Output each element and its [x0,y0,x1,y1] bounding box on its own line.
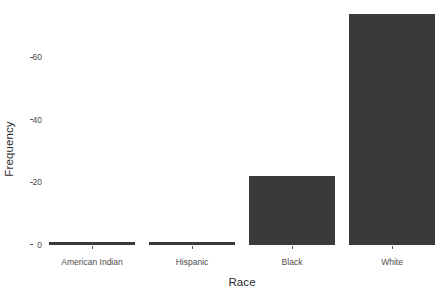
y-tick-mark [30,182,33,183]
x-tick-mark [292,246,293,249]
x-tick-label: Hispanic [176,257,209,267]
y-axis-title: Frequency [0,0,18,298]
x-tick-label: American Indian [61,257,122,267]
y-tick: 40 [0,116,42,125]
bar[interactable] [149,242,235,245]
plot-area [42,8,442,245]
y-tick: 20 [0,178,42,187]
bar-chart: Frequency 0204060 American IndianHispani… [0,0,445,298]
y-tick-mark [30,57,33,58]
x-tick-label: Black [282,257,303,267]
x-tick-mark [92,246,93,249]
y-tick-mark [30,244,33,245]
y-tick-label: 0 [16,241,42,250]
x-tick-mark [392,246,393,249]
bar[interactable] [49,242,135,245]
y-tick-label: 60 [16,53,42,62]
bar[interactable] [249,176,335,245]
y-tick-label: 20 [16,178,42,187]
x-axis-title: Race [42,275,442,289]
x-tick-mark [192,246,193,249]
bar[interactable] [349,14,435,245]
y-tick-label: 40 [16,116,42,125]
x-tick-label: White [381,257,403,267]
y-tick-mark [30,119,33,120]
y-tick: 60 [0,53,42,62]
y-tick: 0 [0,241,42,250]
